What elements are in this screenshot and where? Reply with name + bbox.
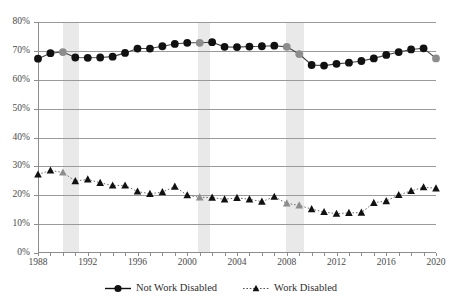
x-axis-tick-label: 2020 — [416, 258, 450, 268]
x-axis-tick — [324, 253, 325, 256]
x-axis-tick — [349, 253, 350, 256]
data-point — [183, 39, 191, 47]
series-line-work-disabled — [38, 170, 436, 213]
data-point — [208, 194, 216, 201]
x-axis-tick — [411, 253, 412, 256]
x-axis-tick — [162, 253, 163, 256]
x-axis-tick — [212, 253, 213, 256]
x-axis-tick — [75, 253, 76, 256]
data-point — [345, 209, 353, 216]
chart-legend: Not Work Disabled Work Disabled — [0, 283, 442, 294]
data-point — [246, 43, 254, 51]
data-point — [59, 168, 67, 175]
data-point — [407, 46, 415, 54]
x-axis-tick-label: 2000 — [167, 258, 207, 268]
x-axis-tick — [436, 253, 437, 256]
plot-area — [38, 22, 436, 253]
y-axis-tick-label: 70% — [0, 46, 30, 56]
x-axis-tick-label: 2008 — [267, 258, 307, 268]
x-axis-tick — [187, 253, 188, 256]
x-axis-tick-label: 2004 — [217, 258, 257, 268]
data-point — [34, 55, 42, 63]
x-axis-tick — [200, 253, 201, 256]
legend-marker-circle-icon — [105, 283, 131, 294]
x-axis-tick — [38, 253, 39, 256]
data-point — [171, 40, 179, 48]
data-point — [370, 199, 378, 206]
data-point — [283, 199, 291, 206]
x-axis-tick — [237, 253, 238, 256]
x-axis-tick-label: 1992 — [68, 258, 108, 268]
data-point — [196, 39, 204, 47]
y-axis-tick-label: 80% — [0, 17, 30, 27]
x-axis-tick — [337, 253, 338, 256]
x-axis-tick — [299, 253, 300, 256]
data-point — [96, 54, 104, 62]
y-axis-tick-label: 30% — [0, 161, 30, 171]
data-point — [233, 194, 241, 201]
data-point — [358, 209, 366, 216]
data-point — [171, 183, 179, 190]
x-axis-tick — [138, 253, 139, 256]
data-point — [208, 38, 216, 46]
data-point — [84, 175, 92, 182]
data-point — [84, 54, 92, 62]
data-point — [121, 49, 129, 57]
x-axis-tick — [386, 253, 387, 256]
data-point — [295, 201, 303, 208]
data-point — [246, 195, 254, 202]
x-axis-tick-label: 2012 — [317, 258, 357, 268]
y-axis-tick-label: 40% — [0, 133, 30, 143]
x-axis-tick — [424, 253, 425, 256]
legend-item-not-work-disabled: Not Work Disabled — [105, 283, 217, 294]
data-point — [159, 188, 167, 195]
data-point — [221, 43, 229, 51]
data-point — [420, 183, 428, 190]
data-point — [295, 50, 303, 58]
data-point — [370, 54, 378, 62]
data-point — [71, 54, 79, 62]
x-axis-tick — [399, 253, 400, 256]
x-axis-tick — [225, 253, 226, 256]
y-axis-tick-label: 20% — [0, 190, 30, 200]
data-point — [333, 60, 341, 68]
x-axis-tick-label: 1988 — [18, 258, 58, 268]
data-point — [72, 177, 80, 184]
data-point — [270, 42, 278, 50]
data-point — [432, 54, 440, 62]
data-point — [283, 43, 291, 51]
legend-label-work-disabled: Work Disabled — [274, 283, 337, 294]
y-axis-tick-label: 60% — [0, 75, 30, 85]
data-point — [345, 59, 353, 67]
data-point — [432, 184, 440, 191]
x-axis-tick — [249, 253, 250, 256]
data-point — [271, 193, 279, 200]
data-point — [357, 57, 365, 65]
data-point — [134, 45, 142, 53]
data-point — [320, 62, 328, 70]
data-point — [308, 61, 316, 69]
x-axis-tick — [63, 253, 64, 256]
x-axis-tick — [113, 253, 114, 256]
data-point — [382, 197, 390, 204]
x-axis-tick — [50, 253, 51, 256]
x-axis-tick-label: 1996 — [118, 258, 158, 268]
x-axis-tick — [125, 253, 126, 256]
data-point — [146, 45, 154, 53]
x-axis-tick-label: 2016 — [366, 258, 406, 268]
data-point — [47, 49, 55, 57]
data-point — [134, 188, 142, 195]
x-axis-tick — [312, 253, 313, 256]
data-point — [47, 166, 55, 173]
data-point — [34, 170, 42, 177]
y-axis-tick-label: 0% — [0, 248, 30, 258]
data-point — [395, 48, 403, 56]
x-axis-tick — [100, 253, 101, 256]
data-point — [59, 48, 67, 56]
data-point — [382, 51, 390, 59]
y-axis-tick-label: 10% — [0, 219, 30, 229]
y-axis-tick — [34, 253, 38, 254]
x-axis-tick — [88, 253, 89, 256]
data-point — [233, 43, 241, 51]
